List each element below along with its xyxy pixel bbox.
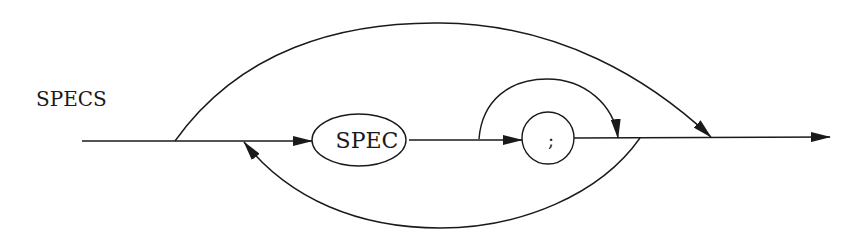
bypass-all-arc [175, 23, 711, 141]
semicolon-to-exit-line [574, 137, 830, 138]
semicolon-label: ; [548, 130, 554, 151]
repeat-loop-arc [244, 138, 640, 228]
spec-node: SPEC [312, 114, 406, 166]
diagram-title: SPECS [36, 87, 107, 111]
spec-label: SPEC [336, 128, 399, 153]
syntax-diagram: SPECS SPEC ; [0, 0, 862, 243]
semicolon-node: ; [522, 112, 574, 164]
